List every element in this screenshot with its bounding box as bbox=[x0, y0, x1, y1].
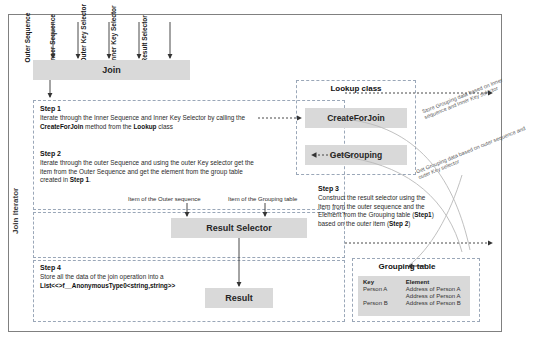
grouping-table-grid: Key Element Person A Address of Person A… bbox=[358, 276, 470, 316]
step-1-text: Iterate through the Inner Sequence and I… bbox=[40, 114, 270, 131]
step-4-title: Step 4 bbox=[40, 264, 255, 271]
diagram-canvas: Join Iterator Outer Sequence Inner Seque… bbox=[0, 0, 536, 342]
step-1-block: Step 1 Iterate through the Inner Sequenc… bbox=[40, 105, 270, 131]
step-3-block: Step 3 Construct the result selector usi… bbox=[318, 185, 438, 228]
table-header-row: Key Element bbox=[363, 279, 465, 286]
step-3-title: Step 3 bbox=[318, 185, 438, 192]
cell-key: Person A bbox=[363, 286, 406, 293]
result-selector-input-label-grouping: Item of the Grouping table bbox=[228, 196, 297, 202]
grouping-table-title: Grouping table bbox=[352, 262, 462, 271]
result-selector-box: Result Selector bbox=[171, 218, 307, 238]
step-2-title: Step 2 bbox=[40, 150, 255, 157]
cell-element: Address of Person A bbox=[406, 286, 465, 293]
result-box: Result bbox=[205, 288, 273, 308]
join-iterator-label: Join Iterator bbox=[11, 188, 20, 234]
grouping-table: Key Element Person A Address of Person A… bbox=[363, 279, 465, 307]
step-2-block: Step 2 Iterate through the outer Sequenc… bbox=[40, 150, 255, 185]
column-header-key: Key bbox=[363, 279, 406, 286]
step-3-text: Construct the result selector using the … bbox=[318, 194, 438, 228]
step-4-block: Step 4 Store all the data of the join op… bbox=[40, 264, 255, 290]
create-for-join-box: CreateForJoin bbox=[305, 108, 407, 128]
join-box: Join bbox=[33, 60, 190, 80]
input-label-inner-sequence: Inner Sequence bbox=[49, 14, 57, 62]
lookup-class-title: Lookup class bbox=[296, 84, 416, 93]
input-label-outer-key-selector: Outer Key Selector bbox=[80, 4, 88, 63]
cell-key bbox=[363, 293, 406, 300]
input-label-result-selector: Result Selector bbox=[141, 15, 149, 62]
step-1-title: Step 1 bbox=[40, 105, 270, 112]
input-label-inner-key-selector: Inner Key Selector bbox=[110, 5, 118, 62]
table-row: Person A Address of Person A bbox=[363, 286, 465, 293]
cell-key: Person B bbox=[363, 300, 406, 307]
table-row: Person B Address of Person B bbox=[363, 300, 465, 307]
step-2-text: Iterate through the outer Sequence and u… bbox=[40, 159, 255, 185]
column-header-element: Element bbox=[406, 279, 465, 286]
cell-element: Address of Person A bbox=[406, 293, 465, 300]
input-label-outer-sequence: Outer Sequence bbox=[24, 13, 32, 63]
result-selector-input-label-outer: Item of the Outer sequence bbox=[128, 196, 201, 202]
cell-element: Address of Person B bbox=[406, 300, 465, 307]
table-row: Address of Person A bbox=[363, 293, 465, 300]
get-grouping-box: GetGrouping bbox=[305, 145, 407, 165]
